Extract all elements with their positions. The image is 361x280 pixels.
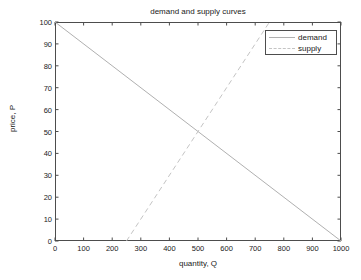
y-tick-label: 10 (44, 215, 52, 224)
legend-line-sample-supply (269, 44, 295, 54)
y-tick-label: 40 (44, 149, 52, 158)
x-tick-label: 500 (192, 244, 205, 253)
y-tick-label: 80 (44, 61, 52, 70)
chart-figure: demand and supply curves 010020030040050… (0, 0, 361, 280)
y-axis-label: price, P (8, 89, 17, 149)
y-tick-label: 60 (44, 105, 52, 114)
x-tick-label: 400 (163, 244, 176, 253)
legend-label-demand: demand (298, 33, 327, 43)
y-tick-label: 70 (44, 83, 52, 92)
x-tick-label: 300 (135, 244, 148, 253)
y-tick-label: 50 (44, 127, 52, 136)
y-tick-label: 0 (48, 237, 52, 246)
y-tick-label: 100 (39, 18, 52, 27)
y-tick-label: 90 (44, 39, 52, 48)
x-tick-label: 900 (306, 244, 319, 253)
legend-line-sample-demand (269, 33, 295, 43)
y-tick-label-group: 0102030405060708090100 (20, 0, 52, 280)
x-tick-label: 100 (77, 244, 90, 253)
legend-label-supply: supply (298, 44, 321, 54)
x-tick-label: 0 (53, 244, 57, 253)
y-tick-label: 30 (44, 171, 52, 180)
legend-item-supply[interactable]: supply (266, 43, 338, 54)
figure-window: demand and supply curves 010020030040050… (0, 0, 361, 280)
x-tick-label: 200 (106, 244, 119, 253)
chart-legend[interactable]: demand supply (265, 30, 337, 55)
x-tick-label: 700 (249, 244, 262, 253)
x-tick-label: 800 (278, 244, 291, 253)
chart-title: demand and supply curves (55, 6, 341, 17)
legend-item-demand[interactable]: demand (266, 32, 338, 43)
x-axis-label: quantity, Q (55, 259, 341, 268)
y-tick-label: 20 (44, 193, 52, 202)
x-tick-label: 1000 (333, 244, 350, 253)
x-tick-label: 600 (220, 244, 233, 253)
